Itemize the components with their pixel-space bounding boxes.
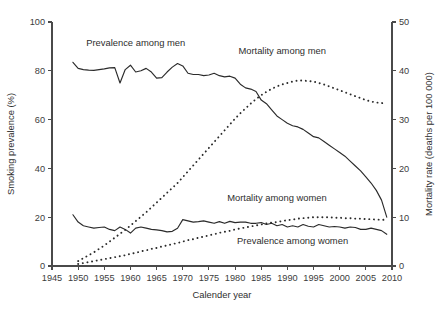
series-annotation-prevalence-among-men: Prevalence among men xyxy=(86,37,185,48)
y-axis-left-tick-label: 40 xyxy=(35,164,45,174)
series-annotation-mortality-among-women: Mortality among women xyxy=(227,192,327,203)
x-axis-tick-label: 1965 xyxy=(146,273,166,283)
x-axis-tick-label: 1990 xyxy=(277,273,297,283)
x-axis-tick-label: 1975 xyxy=(199,273,219,283)
y-axis-right-tick-label: 40 xyxy=(399,66,409,76)
series-line-mortality-among-men xyxy=(78,81,387,262)
x-axis-tick-label: 2010 xyxy=(382,273,402,283)
series-group xyxy=(73,62,387,264)
x-axis-tick-label: 1980 xyxy=(225,273,245,283)
y-axis-left-tick-label: 100 xyxy=(30,17,45,27)
x-axis-tick-label: 2000 xyxy=(329,273,349,283)
x-axis-title: Calender year xyxy=(193,289,252,300)
axes-group: 0204060801000102030405019451950195519601… xyxy=(30,17,410,283)
x-axis-tick-label: 1945 xyxy=(42,273,62,283)
y-axis-right-tick-label: 30 xyxy=(399,115,409,125)
x-axis-tick-label: 1985 xyxy=(251,273,271,283)
y-axis-right-tick-label: 20 xyxy=(399,164,409,174)
y-axis-left-tick-label: 60 xyxy=(35,115,45,125)
y-axis-right-tick-label: 0 xyxy=(399,261,404,271)
x-axis-tick-label: 1960 xyxy=(120,273,140,283)
x-axis-tick-label: 1995 xyxy=(303,273,323,283)
x-axis-tick-label: 1970 xyxy=(173,273,193,283)
y-axis-left-title: Smoking prevalence (%) xyxy=(5,93,16,195)
y-axis-right-tick-label: 10 xyxy=(399,213,409,223)
x-axis-tick-label: 1955 xyxy=(94,273,114,283)
chart-canvas: 0204060801000102030405019451950195519601… xyxy=(0,0,444,316)
smoking-mortality-chart: 0204060801000102030405019451950195519601… xyxy=(0,0,444,316)
x-axis-tick-label: 1950 xyxy=(68,273,88,283)
y-axis-left-tick-label: 0 xyxy=(40,261,45,271)
x-axis-tick-label: 2005 xyxy=(356,273,376,283)
y-axis-left-tick-label: 20 xyxy=(35,213,45,223)
series-annotation-mortality-among-men: Mortality among men xyxy=(238,45,326,56)
y-axis-right-tick-label: 50 xyxy=(399,17,409,27)
y-axis-right-title: Mortality rate (deaths per 100 000) xyxy=(423,72,434,216)
y-axis-left-tick-label: 80 xyxy=(35,66,45,76)
series-annotation-prevalence-among-women: Prevalence among women xyxy=(237,235,348,246)
